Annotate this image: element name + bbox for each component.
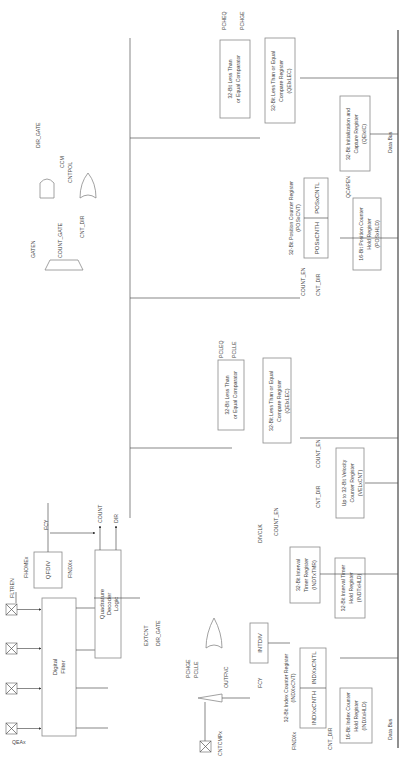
svg-text:QEAx: QEAx — [12, 739, 26, 745]
svg-text:Counter Register: Counter Register — [349, 463, 355, 502]
interval-timer-register: 32-Bit Interval Timer Register (INDTxTMR… — [290, 547, 320, 603]
gate-mux — [45, 260, 83, 270]
dir-label: DIR — [113, 514, 119, 523]
svg-text:POSxCNTL: POSxCNTL — [314, 182, 320, 214]
svg-text:32-Bit Less Than: 32-Bit Less Than — [224, 375, 230, 414]
qei-block-diagram: Data Bus Data Bus QEAx Digital — [0, 0, 404, 758]
pchge-label: PCHGE — [239, 11, 245, 30]
svg-text:CNTCMPx: CNTCMPx — [217, 731, 223, 756]
cntpol-label: CNTPOL — [67, 162, 73, 183]
pin-cntcmp: CNTCMPx — [200, 731, 223, 756]
svg-text:(INDTxTMR): (INDTxTMR) — [311, 560, 317, 590]
comparator-2: 32-Bit Less Than or Equal Comparator — [220, 40, 250, 118]
svg-text:Digital: Digital — [52, 659, 58, 676]
index-counter-register: INDXxCNTH INDXxCNTL 32-Bit Index Counter… — [283, 648, 326, 728]
divclk-label: DIVCLK — [257, 524, 263, 543]
fltren-label: FLTREN — [9, 578, 15, 598]
dir-gate-label: DIR_GATE — [155, 620, 161, 646]
svg-text:Filter: Filter — [60, 660, 66, 673]
svg-text:(QEIxLEC): (QEIxLEC) — [284, 388, 290, 413]
gaten-label: GATEN — [30, 240, 36, 258]
extcnt-label: EXTCNT — [143, 624, 149, 646]
svg-text:(VELxCNT): (VELxCNT) — [357, 469, 363, 496]
cnt-dir-label-gate: CNT_DIR — [79, 215, 85, 238]
pcleq-label: PCLEQ — [218, 340, 224, 358]
pclle-label-mux: PCLLE — [193, 661, 199, 678]
svg-text:32-Bit Interval Timer: 32-Bit Interval Timer — [340, 565, 346, 612]
svg-text:Quadrature: Quadrature — [99, 588, 105, 619]
svg-text:32-Bit Initialization and: 32-Bit Initialization and — [345, 108, 351, 160]
svg-text:or Equal Comparator: or Equal Comparator — [235, 55, 241, 103]
svg-text:POSxCNTH: POSxCNTH — [314, 222, 320, 254]
svg-text:(INDXxCNT): (INDXxCNT) — [290, 673, 296, 702]
qfdiv-block: QFDIV — [34, 552, 62, 588]
svg-text:(INDTxHLD): (INDTxHLD) — [356, 573, 362, 602]
svg-text:Hold Register: Hold Register — [353, 700, 359, 732]
dir-gate-label-and: DIR_GATE — [35, 122, 41, 148]
quadrature-decoder-block: Quadrature Decoder Logic — [95, 550, 121, 658]
pchge-label-mux: PCHGE — [185, 659, 191, 678]
fcy-label-2: FCY — [257, 677, 263, 688]
svg-text:(QEIxIC): (QEIxIC) — [361, 124, 367, 144]
pin-home — [6, 604, 41, 615]
pin-qeb — [6, 683, 41, 694]
ccm-label: CCM — [59, 156, 65, 168]
svg-text:32-Bit Less Than or Equal: 32-Bit Less Than or Equal — [268, 371, 274, 431]
svg-text:32-Bit Index Counter Register: 32-Bit Index Counter Register — [283, 654, 289, 723]
svg-text:32-Bit Position Counter Regist: 32-Bit Position Counter Register — [288, 181, 294, 255]
interval-hold-register: 32-Bit Interval Timer Hold Register (IND… — [335, 558, 365, 618]
svg-text:Timer Register: Timer Register — [303, 558, 309, 592]
count-en-label-1: COUNT_EN — [273, 507, 279, 536]
svg-text:Up to 32-Bit Velocity: Up to 32-Bit Velocity — [341, 459, 347, 506]
svg-text:or Equal Comparator: or Equal Comparator — [232, 371, 238, 419]
svg-text:Hold Register: Hold Register — [366, 218, 372, 250]
qcapen-label: QCAPEN — [345, 176, 351, 198]
svg-text:Decoder: Decoder — [106, 593, 112, 616]
svg-text:INDXxCNTL: INDXxCNTL — [311, 651, 317, 685]
svg-text:Compare Register: Compare Register — [276, 380, 282, 422]
cnt-dir-in-label: CNT_DIR — [327, 727, 333, 750]
findx-in-label: FINDXx — [291, 731, 297, 750]
count-label: COUNT — [97, 504, 103, 523]
digital-filter-block: Digital Filter — [42, 598, 76, 736]
pcheq-label: PCHEQ — [221, 12, 227, 30]
svg-text:Logic: Logic — [113, 597, 119, 611]
count-gate-label: COUNT_GATE — [57, 222, 63, 258]
cnt-dir-label-pos: CNT_DIR — [315, 273, 321, 296]
xor-gate — [80, 173, 96, 198]
svg-text:Capture Register: Capture Register — [353, 114, 359, 153]
svg-text:32-Bit Interval: 32-Bit Interval — [295, 559, 301, 591]
svg-text:(POSxHLD): (POSxHLD) — [374, 220, 380, 248]
compare-register-lec-2: 32-Bit Less Than or Equal Compare Regist… — [265, 38, 295, 123]
init-capture-register: 32-Bit Initialization and Capture Regist… — [340, 96, 370, 171]
svg-text:INDXxCNTH: INDXxCNTH — [311, 691, 317, 725]
index-hold-register: 16-Bit Index Counter Hold Register (INDX… — [340, 688, 372, 743]
fhome-label: FHOMEx — [23, 556, 29, 578]
velocity-counter-register: Up to 32-Bit Velocity Counter Register (… — [336, 448, 364, 518]
pin-indx — [6, 643, 41, 654]
pin-qea: QEAx — [6, 723, 41, 745]
compare-register-lec-1: 32-Bit Less Than or Equal Compare Regist… — [263, 358, 291, 443]
svg-text:Compare Register: Compare Register — [278, 60, 284, 102]
svg-text:QFDIV: QFDIV — [45, 561, 51, 579]
svg-text:16-Bit Index Counter: 16-Bit Index Counter — [345, 692, 351, 740]
position-counter-register: POSxCNTH POSxCNTL 32-Bit Position Counte… — [288, 178, 328, 258]
data-bus-label-right: Data Bus — [387, 131, 393, 153]
svg-text:Hold Register: Hold Register — [348, 572, 354, 604]
svg-text:16-Bit Position Counter: 16-Bit Position Counter — [358, 207, 364, 261]
count-en-label-pos: COUNT_EN — [300, 267, 306, 296]
comparator-1: 32-Bit Less Than or Equal Comparator — [218, 360, 244, 430]
intdiv-block: INTDIV — [250, 623, 268, 663]
svg-text:(INDXxHLD): (INDXxHLD) — [361, 701, 367, 730]
outfnc-label: OUTFNC — [223, 666, 229, 688]
cnt-dir-label-vel: CNT_DIR — [315, 485, 321, 508]
position-hold-register: 16-Bit Position Counter Hold Register (P… — [353, 198, 381, 270]
findx-label: FINDXx — [67, 559, 73, 578]
svg-text:32-Bit Less Than or Equal: 32-Bit Less Than or Equal — [270, 51, 276, 111]
pclle-label: PCLLE — [231, 341, 237, 358]
svg-text:32-Bit Less Than: 32-Bit Less Than — [227, 59, 233, 98]
svg-text:INTDIV: INTDIV — [257, 633, 263, 653]
output-mux — [198, 694, 222, 702]
data-bus-label-left: Data Bus — [387, 718, 393, 740]
svg-text:(QEIxLEC): (QEIxLEC) — [286, 68, 292, 93]
